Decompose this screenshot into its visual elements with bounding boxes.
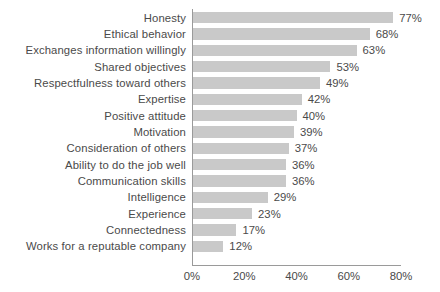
category-label: Expertise [0, 91, 186, 107]
category-label: Respectfulness toward others [0, 75, 186, 91]
x-tick-label: 80% [390, 269, 413, 283]
bar [192, 45, 357, 56]
bar-row: Honesty77% [0, 10, 440, 26]
bar-value-label: 68% [376, 26, 399, 42]
bar-fill [192, 45, 357, 56]
x-tick-label: 60% [337, 269, 360, 283]
bar-row: Intelligence29% [0, 189, 440, 205]
bar-fill [192, 143, 289, 154]
bar-row: Expertise42% [0, 91, 440, 107]
bar [192, 208, 252, 219]
bar-value-label: 49% [326, 75, 349, 91]
x-tick-label: 40% [285, 269, 308, 283]
bar-fill [192, 110, 297, 121]
bar-fill [192, 126, 294, 137]
x-tick-label: 0% [184, 269, 200, 283]
bar-fill [192, 94, 302, 105]
bar-row: Shared objectives53% [0, 59, 440, 75]
bar-fill [192, 28, 370, 39]
bar-fill [192, 77, 320, 88]
category-label: Exchanges information willingly [0, 42, 186, 58]
bar-fill [192, 61, 330, 72]
category-label: Ethical behavior [0, 26, 186, 42]
bar [192, 143, 289, 154]
bar-value-label: 40% [303, 108, 326, 124]
bar-row: Experience23% [0, 206, 440, 222]
bar-value-label: 17% [242, 222, 265, 238]
bar-row: Ability to do the job well36% [0, 157, 440, 173]
bar-row: Motivation39% [0, 124, 440, 140]
category-label: Connectedness [0, 222, 186, 238]
plot-area: Honesty77%Ethical behavior68%Exchanges i… [0, 0, 440, 292]
bar-value-label: 77% [399, 10, 422, 26]
bar [192, 192, 268, 203]
bar-fill [192, 208, 252, 219]
category-label: Honesty [0, 10, 186, 26]
bar-value-label: 37% [295, 140, 318, 156]
bar [192, 12, 393, 23]
category-label: Positive attitude [0, 108, 186, 124]
bar [192, 110, 297, 121]
bar-row: Ethical behavior68% [0, 26, 440, 42]
bar-chart: Honesty77%Ethical behavior68%Exchanges i… [0, 0, 440, 292]
bar-fill [192, 224, 236, 235]
bar [192, 126, 294, 137]
category-label: Communication skills [0, 173, 186, 189]
bar-fill [192, 192, 268, 203]
bar-fill [192, 159, 286, 170]
bar-value-label: 23% [258, 206, 281, 222]
bar-row: Positive attitude40% [0, 108, 440, 124]
bar [192, 241, 223, 252]
bar-value-label: 36% [292, 157, 315, 173]
bar-value-label: 53% [336, 59, 359, 75]
category-label: Shared objectives [0, 59, 186, 75]
bar-row: Works for a reputable company12% [0, 238, 440, 254]
bar-row: Exchanges information willingly63% [0, 42, 440, 58]
bar-value-label: 36% [292, 173, 315, 189]
bar-value-label: 63% [363, 42, 386, 58]
bar-fill [192, 12, 393, 23]
bar-row: Connectedness17% [0, 222, 440, 238]
category-label: Consideration of others [0, 140, 186, 156]
bar [192, 28, 370, 39]
bar-fill [192, 241, 223, 252]
bar-value-label: 42% [308, 91, 331, 107]
x-tick-label: 20% [233, 269, 256, 283]
bar-row: Consideration of others37% [0, 140, 440, 156]
bar-value-label: 39% [300, 124, 323, 140]
bar [192, 77, 320, 88]
y-axis-line [192, 9, 193, 266]
category-label: Motivation [0, 124, 186, 140]
bar-value-label: 29% [274, 189, 297, 205]
bar-row: Communication skills36% [0, 173, 440, 189]
bar-fill [192, 175, 286, 186]
bar [192, 94, 302, 105]
bar-row: Respectfulness toward others49% [0, 75, 440, 91]
bar-value-label: 12% [229, 238, 252, 254]
category-label: Intelligence [0, 189, 186, 205]
bar [192, 159, 286, 170]
category-label: Works for a reputable company [0, 238, 186, 254]
category-label: Ability to do the job well [0, 157, 186, 173]
bar [192, 224, 236, 235]
bar [192, 61, 330, 72]
category-label: Experience [0, 206, 186, 222]
x-axis-line [192, 265, 401, 266]
bar [192, 175, 286, 186]
